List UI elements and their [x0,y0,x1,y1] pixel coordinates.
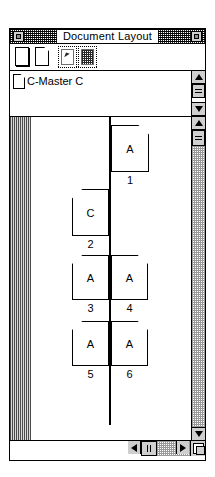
page-thumbnail[interactable]: C [72,189,109,236]
page-layout-canvas[interactable]: A 1 C 2 A 3 A 4 A 5 A 6 [10,117,205,441]
title-bar[interactable]: Document Layout [10,29,205,44]
page-pointer-tool[interactable] [58,46,77,68]
scroll-up-arrow[interactable] [192,117,205,130]
page-thumbnail[interactable]: A [111,255,148,300]
canvas-left-margin [10,117,31,440]
scroll-thumb[interactable] [192,130,205,146]
scroll-right-arrow[interactable] [176,441,189,454]
canvas-horizontal-scrollbar[interactable] [10,441,205,457]
thumb-line [195,89,202,90]
arrow-down-icon [195,106,203,112]
page-thumbnail[interactable]: A [72,321,109,366]
page-number: 4 [111,302,148,314]
thumb-line [195,92,202,93]
list-item[interactable]: C-Master C [13,74,83,89]
master-pages-list[interactable]: C-Master C [10,71,205,117]
scroll-up-arrow[interactable] [192,71,205,84]
resize-grow-box[interactable] [190,441,205,456]
arrow-up-icon [195,120,203,126]
grid-icon [81,49,94,65]
page-thumbnail[interactable]: A [111,125,149,172]
arrow-left-icon [131,444,137,452]
page-number: 1 [111,174,149,186]
page-master-letter: C [87,207,95,219]
scroll-down-arrow[interactable] [192,102,205,115]
page-fold-icon [35,47,49,66]
scroll-thumb[interactable] [141,441,157,456]
title-wrap: Document Layout [10,29,205,44]
grid-tool[interactable] [78,46,97,68]
page-master-letter: A [87,272,94,284]
scroll-down-arrow[interactable] [192,427,205,440]
thumb-line [195,139,202,140]
page-master-letter: A [87,338,94,350]
scroll-track[interactable] [192,130,205,427]
page-icon [15,47,29,66]
page-thumbnail[interactable]: A [72,255,109,300]
window-title: Document Layout [57,30,158,43]
pointer-arrow-icon [64,52,69,58]
master-list-scrollbar[interactable] [191,71,205,116]
grow-box-inner [196,446,205,455]
master-item-label: C-Master C [27,75,83,88]
page-master-letter: A [126,143,133,155]
page-number: 3 [72,302,109,314]
toolbar [10,44,205,71]
facing-pages-tool[interactable] [33,46,52,68]
single-page-tool[interactable] [13,46,32,68]
arrow-right-icon [180,444,186,452]
page-number: 2 [72,238,109,250]
page-number: 6 [111,368,148,380]
thumb-line [147,445,148,452]
thumb-line [150,445,151,452]
canvas-vertical-scrollbar[interactable] [191,117,205,441]
page-number: 5 [72,368,109,380]
page-master-letter: A [126,338,133,350]
scroll-left-arrow[interactable] [128,441,141,454]
hscroll-blank-area [10,441,128,456]
page-icon [13,74,25,89]
arrow-up-icon [195,74,203,80]
document-layout-window: Document Layout C-Master C [9,28,206,461]
thumb-line [195,136,202,137]
page-master-letter: A [126,272,133,284]
page-pointer-icon [61,49,74,65]
arrow-down-icon [195,431,203,437]
page-thumbnail[interactable]: A [111,321,148,366]
scroll-thumb[interactable] [192,84,205,98]
